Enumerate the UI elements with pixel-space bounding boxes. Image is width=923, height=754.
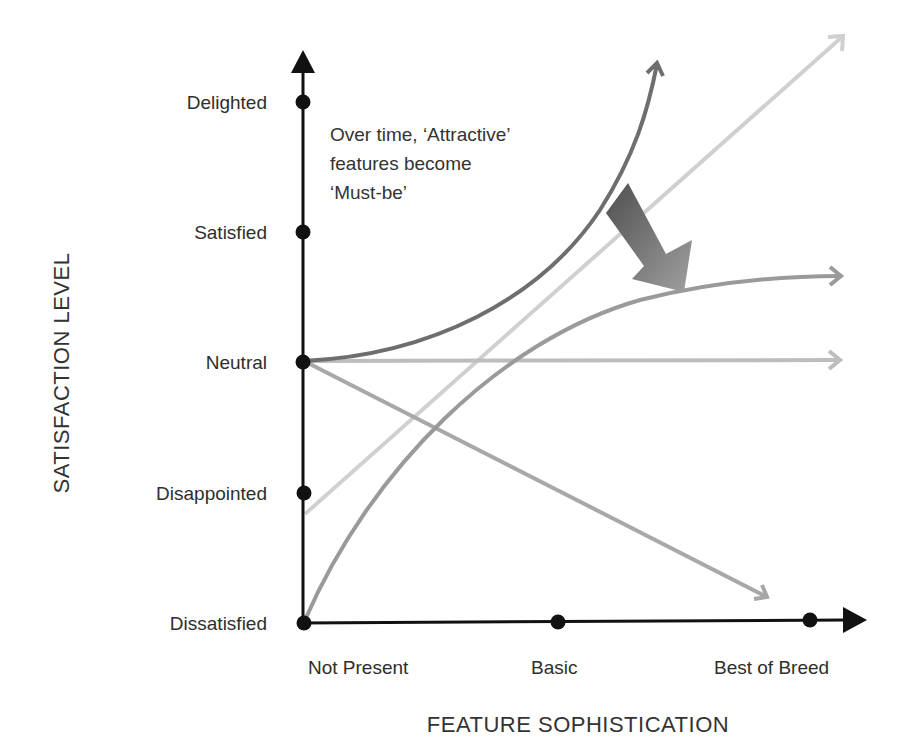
must-be-curve	[305, 276, 841, 620]
annotation-text: Over time, ‘Attractive’ features become …	[330, 120, 511, 207]
x-axis-title: FEATURE SOPHISTICATION	[427, 714, 729, 736]
tick-dot-basic	[551, 615, 566, 630]
x-tick-basic: Basic	[531, 658, 577, 677]
y-axis-title: SATISFACTION LEVEL	[51, 253, 73, 494]
tick-dot-neutral	[296, 355, 311, 370]
tick-dot-disappointed	[297, 486, 312, 501]
y-axis-arrow-icon	[291, 50, 315, 73]
indifferent-line	[304, 360, 840, 361]
attractive-curve	[304, 64, 657, 361]
annotation-line-3: ‘Must-be’	[330, 178, 511, 207]
annotation-line-2: features become	[330, 149, 511, 178]
x-tick-best-of-breed: Best of Breed	[714, 658, 829, 677]
performance-line	[305, 37, 842, 514]
annotation-line-1: Over time, ‘Attractive’	[330, 120, 511, 149]
y-tick-dissatisfied: Dissatisfied	[170, 614, 267, 633]
y-tick-delighted: Delighted	[187, 93, 267, 112]
tick-dot-delighted	[296, 95, 311, 110]
x-tick-not-present: Not Present	[308, 658, 408, 677]
x-axis-arrow-icon	[843, 607, 867, 633]
kano-diagram: Delighted Satisfied Neutral Disappointed…	[0, 0, 923, 754]
y-tick-neutral: Neutral	[206, 353, 267, 372]
y-tick-satisfied: Satisfied	[194, 223, 267, 242]
x-axis	[303, 620, 845, 623]
tick-dot-origin	[297, 616, 312, 631]
diagram-canvas	[0, 0, 923, 754]
tick-dot-best-of-breed	[803, 613, 818, 628]
y-tick-disappointed: Disappointed	[156, 484, 267, 503]
reverse-line	[304, 361, 767, 597]
tick-dot-satisfied	[296, 225, 311, 240]
